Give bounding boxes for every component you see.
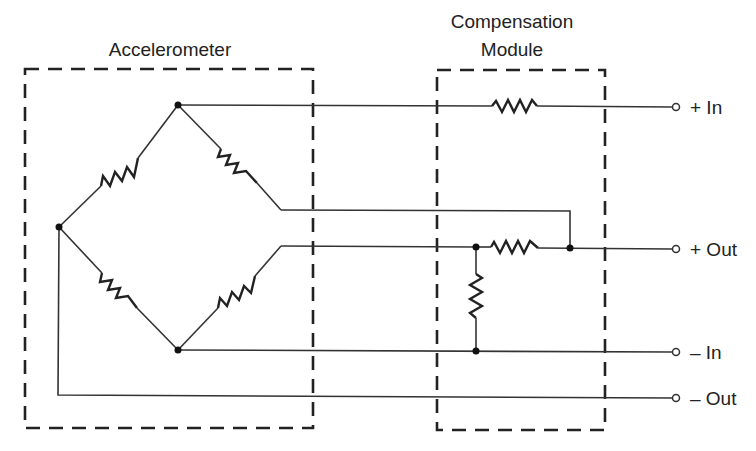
terminal-label-minus-out: – Out xyxy=(690,389,736,408)
wire-plus-in xyxy=(178,105,492,106)
junction-node-bottom xyxy=(175,347,182,354)
accelerometer-boundary xyxy=(25,69,313,428)
bridge-resistor-upper-left xyxy=(59,105,178,227)
terminal-plus-out-icon xyxy=(673,246,680,253)
junction-node-top xyxy=(175,102,182,109)
terminal-plus-in-icon xyxy=(673,104,680,111)
compensation-label-line1: Compensation xyxy=(432,12,592,31)
terminal-label-plus-out: + Out xyxy=(690,240,737,259)
terminal-label-minus-in: – In xyxy=(690,343,722,362)
terminal-minus-out-icon xyxy=(673,395,680,402)
bridge-resistor-lower-right xyxy=(178,246,281,350)
circuit-diagram xyxy=(0,0,756,451)
terminal-minus-in-icon xyxy=(673,349,680,356)
comp-resistor-series-out xyxy=(491,241,538,253)
junction-node-shunt-top xyxy=(473,244,480,251)
wire-plus-out xyxy=(538,248,672,249)
comp-resistor-shunt xyxy=(470,274,482,318)
comp-resistor-series-in xyxy=(492,100,537,112)
junction-node-shunt-bottom xyxy=(473,348,480,355)
terminal-label-plus-in: + In xyxy=(690,98,722,117)
bridge-resistor-upper-right xyxy=(178,105,281,210)
bridge-resistor-lower-left xyxy=(59,227,178,350)
accelerometer-label: Accelerometer xyxy=(90,40,250,59)
wire-minus-in xyxy=(178,350,672,352)
compensation-module-boundary xyxy=(437,70,605,430)
compensation-label-line2: Module xyxy=(432,40,592,59)
wire-minus-out xyxy=(58,227,672,398)
junction-node-plus-out xyxy=(567,245,574,252)
wire-plus-in-out xyxy=(537,106,672,107)
wire-bridge-upper-right xyxy=(281,210,570,248)
junction-node-left xyxy=(56,224,63,231)
wire-bridge-lower-right xyxy=(281,246,476,247)
